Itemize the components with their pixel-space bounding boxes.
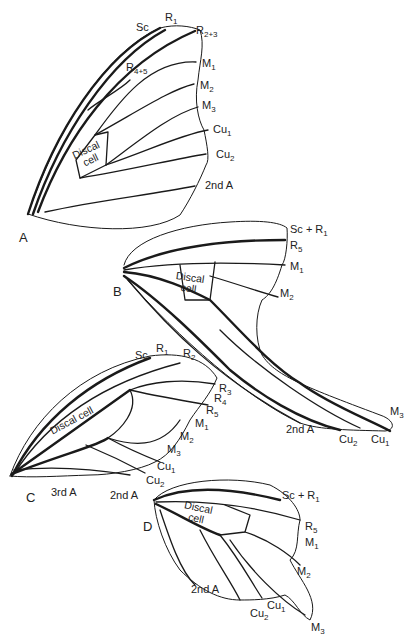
label-c-sc: Sc (135, 350, 148, 361)
label-a-sc: Sc (136, 22, 149, 33)
label-d-m1: M1 (305, 537, 319, 551)
label-c-r5: R5 (206, 405, 218, 419)
panel-label-b: B (113, 285, 122, 298)
label-d-2nd-a: 2nd A (191, 584, 219, 595)
label-b-cu1: Cu1 (371, 434, 390, 448)
wing-drawings (0, 0, 414, 644)
label-a-r4-5: R4+5 (126, 62, 148, 76)
label-a-r1: R1 (165, 12, 177, 26)
label-a-cu1: Cu1 (213, 124, 232, 138)
label-c-cu2: Cu2 (146, 475, 165, 489)
label-c-r2: R2 (183, 348, 195, 362)
panel-label-c: C (26, 491, 35, 504)
label-b-sc-r1: Sc + R1 (290, 224, 328, 238)
label-c-cu1: Cu1 (157, 461, 176, 475)
label-c-m3: M3 (167, 444, 181, 458)
label-d-cu2: Cu2 (250, 608, 269, 622)
wing-venation-figure: Sc R1 R2+3 R4+5 M1 M2 M3 Cu1 Cu2 2nd A D… (0, 0, 414, 644)
label-a-m1: M1 (202, 58, 216, 72)
label-a-2nd-a: 2nd A (205, 180, 233, 191)
panel-label-a: A (19, 231, 28, 244)
label-c-r1: R1 (156, 343, 168, 357)
wing-a-drawing (28, 26, 208, 229)
label-a-r2-3: R2+3 (196, 25, 218, 39)
label-a-m2: M2 (200, 80, 214, 94)
label-b-cu2: Cu2 (339, 434, 358, 448)
label-b-m1: M1 (290, 261, 304, 275)
label-c-m2: M2 (180, 431, 194, 445)
panel-label-d: D (143, 520, 152, 533)
label-b-2nd-a: 2nd A (286, 424, 314, 435)
label-d-r5: R5 (305, 521, 317, 535)
label-b-m2: M2 (280, 288, 294, 302)
label-a-cu2: Cu2 (216, 149, 235, 163)
label-b-r5: R5 (290, 240, 302, 254)
label-c-2nd-a: 2nd A (110, 490, 138, 501)
wing-c-drawing (10, 355, 217, 477)
label-c-3rd-a: 3rd A (51, 487, 77, 498)
label-d-cu1: Cu1 (267, 600, 286, 614)
label-d-sc-r1: Sc + R1 (282, 490, 320, 504)
label-d-m3: M3 (311, 622, 325, 636)
label-c-m1: M1 (195, 418, 209, 432)
wing-b-drawing (124, 221, 392, 431)
label-b-m3: M3 (390, 406, 404, 420)
label-b-discal-cell: Discalcell (174, 270, 205, 296)
label-a-m3: M3 (202, 100, 216, 114)
label-d-m2: M2 (297, 566, 311, 580)
